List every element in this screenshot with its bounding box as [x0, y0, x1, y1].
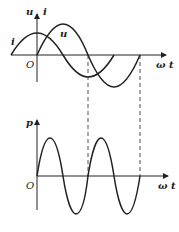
upper-x-axis-label: ω t	[156, 59, 174, 70]
p-axis-label: p	[26, 117, 33, 128]
upper-origin-label: O	[26, 59, 34, 70]
u-curve-label: u	[60, 28, 67, 39]
diagram: u i i u O ω t p O ω t	[0, 0, 179, 232]
lower-plot: p O ω t	[26, 117, 176, 214]
dashed-guides	[88, 55, 140, 176]
lower-origin-label: O	[26, 180, 34, 191]
upper-plot: u i i u O ω t	[11, 6, 174, 87]
i-curve-label: i	[11, 36, 15, 47]
lower-x-axis-label: ω t	[158, 180, 176, 191]
u-axis-label: u	[26, 6, 33, 17]
i-axis-label: i	[43, 6, 47, 17]
